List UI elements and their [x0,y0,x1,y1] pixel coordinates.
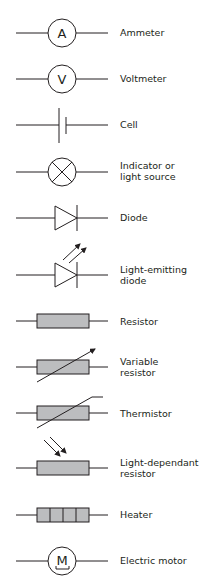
ldr-icon [16,437,108,475]
thermistor-icon [16,397,108,428]
label-line: diode [120,275,187,286]
label-line: light source [120,171,176,182]
led-icon [16,244,108,288]
circuit-symbols-diagram: A V M [0,0,206,587]
cell-icon [16,108,108,143]
label-diode: Diode [120,212,148,223]
label-heater: Heater [120,509,152,520]
label-line: resistor [120,367,158,378]
label-motor: Electric motor [120,555,187,566]
label-thermistor: Thermistor [120,408,172,419]
label-voltmeter: Voltmeter [120,73,167,84]
diode-icon [16,205,108,231]
label-led: Light-emitting diode [120,264,187,286]
ammeter-glyph: A [58,26,67,41]
resistor-icon [16,314,108,328]
lamp-icon [16,158,108,186]
voltmeter-glyph: V [58,72,67,87]
label-line: resistor [120,468,199,479]
label-resistor: Resistor [120,316,158,327]
label-ldr: Light-dependant resistor [120,457,199,479]
label-cell: Cell [120,119,138,130]
motor-glyph: M [56,553,67,568]
label-line: Indicator or [120,160,176,171]
label-line: Light-emitting [120,264,187,275]
label-line: Light-dependant [120,457,199,468]
label-variable-resistor: Variable resistor [120,356,158,378]
variable-resistor-icon [16,349,108,382]
heater-icon [16,508,108,522]
label-indicator: Indicator or light source [120,160,176,182]
label-line: Variable [120,356,158,367]
label-ammeter: Ammeter [120,27,164,38]
